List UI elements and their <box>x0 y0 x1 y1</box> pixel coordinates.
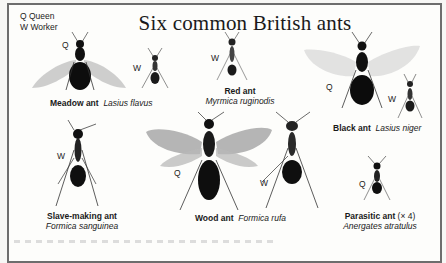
slave-making-ant-worker-illustration <box>52 120 102 210</box>
wood-worker-label: W <box>260 178 268 188</box>
black-ant-worker-illustration <box>396 74 424 120</box>
caption-meadow-ant: Meadow ant Lasius flavus <box>50 98 153 108</box>
caption-wood-ant: Wood ant Formica rufa <box>195 213 286 223</box>
parasitic-queen-label: Q <box>359 179 366 189</box>
truncated-text-row <box>14 240 274 243</box>
red-worker-label: W <box>211 53 219 63</box>
caption-parasitic-ant: Parasitic ant (× 4)Anergates atratulus <box>330 211 430 231</box>
parasitic-ant-queen-illustration <box>362 156 392 202</box>
caption-red-ant: Red antMyrmica ruginodis <box>200 86 280 106</box>
meadow-worker-label: W <box>133 63 141 73</box>
wood-queen-label: Q <box>174 168 181 178</box>
red-ant-worker-illustration <box>215 32 249 84</box>
meadow-ant-queen-illustration <box>28 32 128 92</box>
black-worker-label: W <box>388 94 396 104</box>
meadow-queen-label: Q <box>62 40 69 50</box>
caption-slave-making-ant: Slave-making antFormica sanguinea <box>32 211 132 231</box>
meadow-ant-worker-illustration <box>140 48 170 92</box>
caption-black-ant: Black ant Lasius niger <box>333 123 421 133</box>
wood-ant-queen-illustration <box>144 112 274 212</box>
slave-worker-label: W <box>57 151 65 161</box>
wood-ant-worker-illustration <box>262 112 322 212</box>
black-queen-label: Q <box>326 82 333 92</box>
